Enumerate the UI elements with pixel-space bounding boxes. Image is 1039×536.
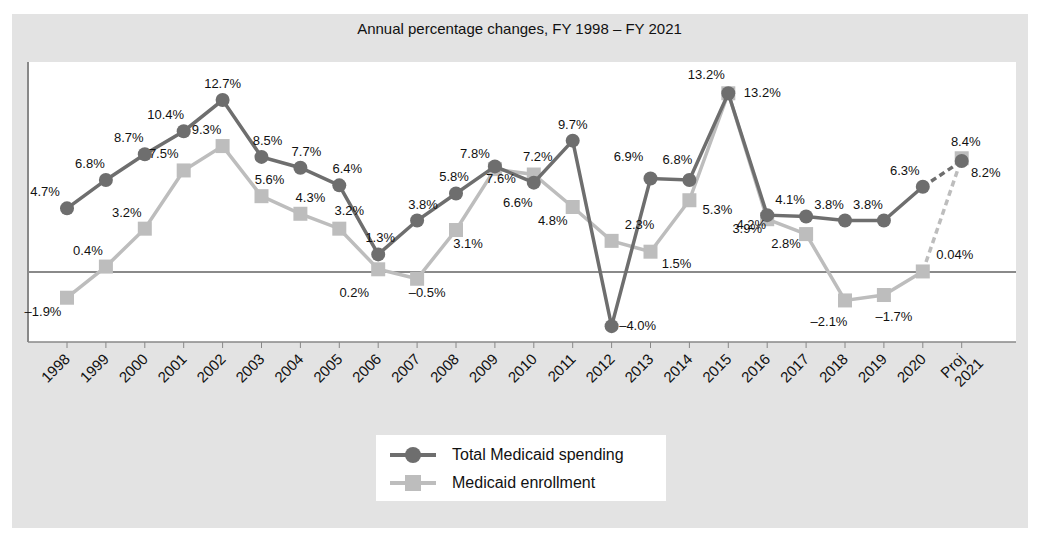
data-point xyxy=(371,262,385,276)
x-axis-ticks xyxy=(67,342,962,348)
x-tick-label: 2013 xyxy=(621,350,657,386)
data-point xyxy=(449,223,463,237)
data-label: 6.6% xyxy=(503,195,533,210)
legend: Total Medicaid spending Medicaid enrollm… xyxy=(376,435,666,501)
data-label: 7.8% xyxy=(460,146,490,161)
data-label: 13.2% xyxy=(744,85,781,100)
data-point xyxy=(332,222,346,236)
data-label: 9.7% xyxy=(558,117,588,132)
data-point xyxy=(527,176,541,190)
x-tick-label: 2005 xyxy=(310,350,346,386)
data-label: 1.5% xyxy=(662,256,692,271)
x-tick-label: 2003 xyxy=(232,350,268,386)
data-label: 8.4% xyxy=(951,134,981,149)
x-tick-label: 2018 xyxy=(816,350,852,386)
data-point xyxy=(99,173,113,187)
x-tick-label: Proj2021 xyxy=(937,343,986,392)
data-label: 8.5% xyxy=(253,133,283,148)
data-label: 5.3% xyxy=(703,202,733,217)
x-tick-label: 2002 xyxy=(193,350,229,386)
data-label: 3.2% xyxy=(334,203,364,218)
data-point xyxy=(60,291,74,305)
data-label: 3.8% xyxy=(853,197,883,212)
data-point xyxy=(216,93,230,107)
x-tick-label: 1999 xyxy=(76,350,112,386)
data-label: 7.7% xyxy=(292,144,322,159)
data-point xyxy=(216,139,230,153)
data-label: 4.1% xyxy=(775,192,805,207)
data-label: 10.4% xyxy=(147,107,184,122)
x-tick-label: 2016 xyxy=(738,350,774,386)
data-label: –1.9% xyxy=(25,304,62,319)
data-point xyxy=(916,264,930,278)
data-point xyxy=(410,214,424,228)
data-label: 4.3% xyxy=(296,190,326,205)
data-label: 3.1% xyxy=(453,236,483,251)
data-label: 3.2% xyxy=(112,205,142,220)
data-label: –4.0% xyxy=(619,318,656,333)
circle-marker-icon xyxy=(388,445,438,465)
x-tick-label: 2009 xyxy=(465,350,501,386)
data-label: 6.3% xyxy=(890,163,920,178)
data-point xyxy=(644,172,658,186)
x-tick-label: 2008 xyxy=(427,350,463,386)
data-point xyxy=(955,154,969,168)
data-point xyxy=(566,200,580,214)
x-tick-label: 2017 xyxy=(777,350,813,386)
data-label: 6.4% xyxy=(332,161,362,176)
data-point xyxy=(682,193,696,207)
data-label: 5.8% xyxy=(439,169,469,184)
x-tick-label: 2004 xyxy=(271,350,307,386)
data-point xyxy=(566,134,580,148)
x-tick-label: 2000 xyxy=(115,350,151,386)
data-label: 0.04% xyxy=(936,247,973,262)
data-label: 6.8% xyxy=(663,152,693,167)
x-tick-label: 2015 xyxy=(699,350,735,386)
x-tick-label: 2020 xyxy=(893,350,929,386)
data-point xyxy=(916,180,930,194)
data-label: 5.6% xyxy=(255,172,285,187)
data-point xyxy=(410,272,424,286)
data-label: 4.7% xyxy=(30,184,60,199)
x-tick-label: 2019 xyxy=(854,350,890,386)
data-label: 3.9% xyxy=(732,221,762,236)
data-point xyxy=(449,186,463,200)
data-label: 6.9% xyxy=(614,149,644,164)
x-tick-label: 2001 xyxy=(154,350,190,386)
data-label: 7.6% xyxy=(486,171,516,186)
legend-item-spending: Total Medicaid spending xyxy=(388,443,624,467)
data-point xyxy=(605,234,619,248)
data-point xyxy=(60,201,74,215)
data-point xyxy=(177,124,191,138)
data-label: 8.7% xyxy=(114,130,144,145)
x-tick-label: 2012 xyxy=(582,350,618,386)
legend-label: Total Medicaid spending xyxy=(452,446,624,464)
x-axis-labels: 1998199920002001200220032004200520062007… xyxy=(38,343,987,392)
data-label: 2.3% xyxy=(625,217,655,232)
legend-label: Medicaid enrollment xyxy=(452,474,595,492)
data-point xyxy=(255,189,269,203)
data-label: 3.8% xyxy=(408,197,438,212)
data-point xyxy=(682,173,696,187)
data-point xyxy=(293,161,307,175)
data-label: 9.3% xyxy=(192,122,222,137)
x-tick-label: 2006 xyxy=(349,350,385,386)
data-point xyxy=(371,247,385,261)
data-label: 7.5% xyxy=(149,146,179,161)
x-tick-label: 2010 xyxy=(504,350,540,386)
data-point xyxy=(838,214,852,228)
x-tick-label: 2014 xyxy=(660,350,696,386)
data-label: –1.7% xyxy=(875,309,912,324)
data-label: –0.5% xyxy=(409,285,446,300)
data-label: 3.8% xyxy=(814,197,844,212)
data-point xyxy=(293,207,307,221)
data-label: 8.2% xyxy=(971,165,1001,180)
data-point xyxy=(138,222,152,236)
data-label: 2.8% xyxy=(771,236,801,251)
data-label: 6.8% xyxy=(75,156,105,171)
data-point xyxy=(799,209,813,223)
square-marker-icon xyxy=(388,473,438,493)
x-tick-label: 2007 xyxy=(388,350,424,386)
data-label: 1.3% xyxy=(365,230,395,245)
data-label: 7.2% xyxy=(523,149,553,164)
